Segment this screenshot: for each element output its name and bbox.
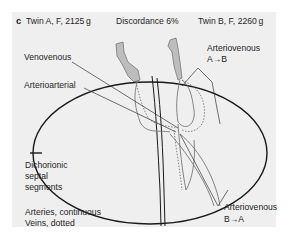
legend-septal-line2: septal (25, 171, 48, 182)
leader-arterioarterial (84, 88, 176, 132)
legend-septal-line3: segments (25, 182, 62, 193)
label-av-ba-line1: Arteriovenous (224, 202, 277, 213)
legend-veins: Veins, dotted (25, 218, 75, 229)
legend-septal-line1: Dichorionic (25, 160, 68, 171)
label-av-ba-line2: B→A (224, 214, 244, 225)
dichorionic-septum (152, 76, 161, 226)
discordance-header: Discordance 6% (116, 16, 179, 27)
umbilical-cord-twin-b (168, 38, 182, 80)
twin-b-header: Twin B, F, 2260 g (198, 16, 263, 27)
leader-venovenous (72, 62, 178, 128)
umbilical-cord-twin-a (116, 42, 140, 82)
label-arterioarterial: Arterioarterial (24, 80, 76, 91)
leader-av-ba (180, 134, 228, 206)
label-venovenous: Venovenous (24, 52, 71, 63)
twin-a-artery (135, 80, 170, 132)
twin-a-header: Twin A, F, 2125 g (26, 16, 91, 27)
panel-letter: c (16, 16, 21, 27)
label-av-ab-line2: A→B (207, 54, 227, 65)
label-av-ab-line1: Arteriovenous (207, 43, 260, 54)
legend-arteries: Arteries, continuous (25, 207, 101, 218)
